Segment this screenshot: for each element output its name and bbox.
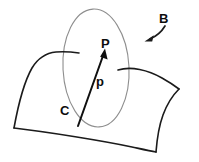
- ellipse-region: [60, 7, 132, 128]
- surface-right-top-edge: [118, 68, 179, 89]
- position-vector-shaft: [78, 53, 104, 126]
- label-vector-p: p: [96, 75, 104, 88]
- label-body-B: B: [159, 12, 168, 25]
- surface-right-edge: [156, 89, 179, 152]
- surface-bottom-edge: [14, 128, 156, 152]
- label-point-P: P: [101, 37, 110, 50]
- body-pointer-arrowhead: [145, 35, 154, 41]
- figure-canvas: B P p C: [0, 0, 199, 162]
- label-origin-C: C: [60, 104, 69, 117]
